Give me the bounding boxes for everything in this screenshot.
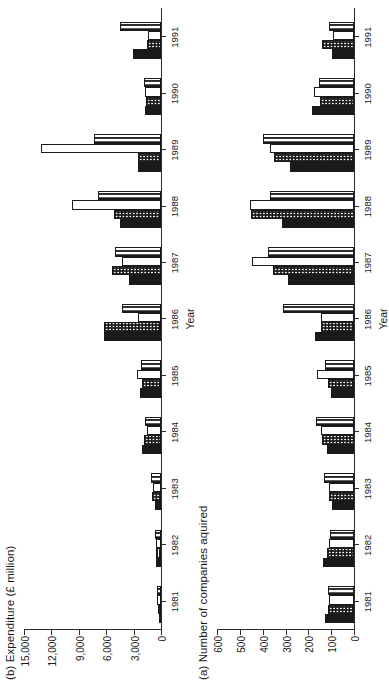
y-tick (331, 630, 332, 635)
bar (144, 435, 161, 444)
y-tick (24, 630, 25, 635)
bar (141, 360, 161, 369)
bar (282, 219, 354, 228)
bar (72, 200, 162, 209)
bar (140, 388, 161, 397)
panel-a-title: (a) Number of companies aquired (197, 506, 209, 680)
bar (312, 106, 354, 115)
x-tick (162, 375, 166, 376)
x-tick-label: 1983 (362, 478, 373, 499)
bar (327, 548, 354, 557)
x-tick (355, 262, 359, 263)
bar (122, 257, 161, 266)
bar (138, 153, 161, 162)
y-tick (161, 630, 162, 635)
bar (323, 558, 354, 567)
bar (290, 162, 354, 171)
x-tick (162, 262, 166, 263)
x-tick-label: 1981 (362, 591, 373, 612)
x-tick-label: 1982 (362, 535, 373, 556)
x-tick (162, 93, 166, 94)
y-tick (263, 630, 264, 635)
x-tick-label: 1989 (169, 140, 180, 161)
bar (329, 539, 354, 548)
bar (319, 78, 354, 87)
bar (283, 304, 354, 313)
x-tick (162, 36, 166, 37)
bar (325, 614, 354, 623)
panel-b-y-axis (24, 629, 162, 630)
bar (274, 153, 354, 162)
bar (321, 313, 354, 322)
bar (158, 605, 161, 614)
x-tick-label: 1988 (169, 196, 180, 217)
bar (328, 586, 354, 595)
bar (327, 445, 354, 454)
x-tick (162, 601, 166, 602)
bar (115, 247, 161, 256)
bar (315, 332, 354, 341)
x-tick-label: 1983 (169, 478, 180, 499)
bar (270, 191, 354, 200)
y-tick (134, 630, 135, 635)
panel-a-x-axis-title: Year (377, 8, 389, 630)
x-tick-label: 1988 (362, 196, 373, 217)
x-tick (355, 93, 359, 94)
bar (120, 219, 161, 228)
bar (328, 379, 354, 388)
y-tick-label: 6,000 (102, 636, 113, 682)
bar (156, 539, 161, 548)
bar (329, 22, 354, 31)
x-tick-label: 1991 (362, 27, 373, 48)
y-tick (286, 630, 287, 635)
y-tick-label: 600 (213, 636, 224, 682)
x-tick (355, 206, 359, 207)
bar (142, 379, 161, 388)
bar (122, 304, 161, 313)
x-tick (355, 36, 359, 37)
bar (156, 548, 161, 557)
y-tick-label: 15,000 (20, 636, 31, 682)
y-tick-label: 300 (281, 636, 292, 682)
bar (144, 78, 161, 87)
bar (157, 586, 161, 595)
bar (330, 530, 354, 539)
y-tick-label: 9,000 (74, 636, 85, 682)
bar (153, 483, 161, 492)
bar (138, 313, 161, 322)
bar (157, 595, 161, 604)
panel-expenditure: (b) Expenditure (£ million) 03,0006,0009… (0, 0, 193, 686)
bar (316, 417, 354, 426)
bar (250, 200, 354, 209)
y-tick (240, 630, 241, 635)
bar (137, 370, 161, 379)
x-tick (355, 375, 359, 376)
bar (151, 473, 161, 482)
bar (142, 445, 161, 454)
bar (314, 87, 354, 96)
x-tick (355, 544, 359, 545)
y-tick-label: 400 (258, 636, 269, 682)
y-tick (354, 630, 355, 635)
x-tick (162, 544, 166, 545)
bar (133, 50, 161, 59)
x-tick-label: 1989 (362, 140, 373, 161)
bar (145, 87, 161, 96)
bar (333, 31, 354, 40)
panel-a-bars (217, 8, 354, 629)
x-tick-label: 1991 (169, 27, 180, 48)
bar (148, 31, 161, 40)
bar (147, 40, 161, 49)
bar (146, 97, 161, 106)
x-tick (162, 488, 166, 489)
x-tick-label: 1982 (169, 535, 180, 556)
bar (156, 558, 161, 567)
x-tick-label: 1987 (362, 252, 373, 273)
bar (263, 134, 354, 143)
bar (155, 530, 161, 539)
bar (147, 426, 161, 435)
x-tick (355, 431, 359, 432)
bar (270, 144, 354, 153)
x-tick-label: 1985 (169, 365, 180, 386)
x-tick-label: 1984 (362, 422, 373, 443)
